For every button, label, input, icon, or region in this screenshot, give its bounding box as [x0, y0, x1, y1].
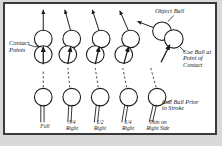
stroke-path-dashed	[150, 66, 156, 87]
object-ball	[63, 30, 81, 47]
column-three-quarter	[59, 10, 81, 123]
figure-page: Contact Points Object Ball Cue Ball at P…	[0, 0, 222, 146]
column-quarter	[115, 11, 140, 123]
stroke-path-dashed	[95, 68, 98, 87]
column-full	[34, 10, 52, 123]
column-label-full: Full	[30, 124, 60, 130]
cue-ball-at-contact	[115, 46, 133, 63]
cue-ball-path-arrow	[161, 45, 170, 62]
object-ball-leader	[168, 16, 174, 22]
cue-ball-prior-to-stroke	[63, 88, 81, 105]
column-label-half: 1/2 Right	[85, 120, 115, 131]
object-ball-label: Object Ball	[155, 8, 184, 15]
cue-ball-prior-to-stroke	[120, 88, 138, 105]
object-ball	[122, 30, 140, 47]
object-ball-path-arrow	[137, 21, 155, 28]
contact-points-leader	[29, 45, 35, 47]
figure-frame: Contact Points Object Ball Cue Ball at P…	[3, 2, 217, 135]
cue-ball-at-contact-label: Cue Ball at Point of Contact	[183, 49, 211, 68]
cue-ball-at-contact	[86, 46, 104, 63]
object-ball-path-arrow	[120, 11, 129, 31]
diagram-canvas	[5, 4, 215, 133]
column-half	[86, 10, 110, 123]
object-ball-path-arrow	[65, 10, 71, 31]
column-label-thin: Thin on Right Side	[139, 120, 177, 131]
cue-ball-prior-to-stroke	[91, 88, 109, 105]
cue-ball-prior-label: Cue Ball Prior to Stroke	[162, 99, 199, 112]
column-label-three-quarter: 3/4 Right	[57, 120, 87, 131]
object-ball	[92, 30, 110, 47]
cue-ball-at-contact	[164, 30, 183, 48]
stroke-path-dashed	[123, 68, 127, 87]
stroke-path-dashed	[68, 68, 70, 87]
object-ball	[34, 30, 52, 47]
cue-ball-prior-to-stroke	[34, 88, 52, 105]
object-ball-path-arrow	[92, 10, 99, 31]
contact-points-label: Contact Points	[9, 40, 29, 53]
